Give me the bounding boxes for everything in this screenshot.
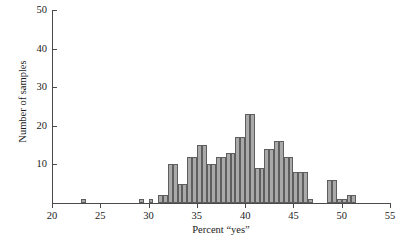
x-tick-label: 35 — [182, 210, 212, 221]
x-tick-mark — [245, 203, 246, 208]
x-tick-mark — [342, 203, 343, 208]
y-tick-mark — [52, 126, 57, 127]
x-tick-mark — [52, 203, 53, 208]
x-tick-mark — [390, 203, 391, 208]
x-tick-mark — [149, 203, 150, 208]
y-tick-mark — [52, 164, 57, 165]
x-tick-mark — [197, 203, 198, 208]
histogram-chart: 1020304050 2025303540455055 Percent “yes… — [0, 0, 405, 242]
y-tick-label: 50 — [0, 5, 47, 15]
x-tick-label: 55 — [375, 210, 405, 221]
x-tick-label: 30 — [134, 210, 164, 221]
y-tick-mark — [52, 49, 57, 50]
x-tick-label: 20 — [37, 210, 67, 221]
histogram-bars — [52, 10, 390, 203]
x-tick-mark — [100, 203, 101, 208]
y-tick-mark — [52, 87, 57, 88]
y-axis-title: Number of samples — [17, 32, 28, 172]
x-tick-label: 40 — [230, 210, 260, 221]
x-tick-label: 45 — [278, 210, 308, 221]
x-tick-mark — [293, 203, 294, 208]
histogram-bar — [308, 199, 313, 203]
x-tick-label: 25 — [85, 210, 115, 221]
x-tick-label: 50 — [327, 210, 357, 221]
histogram-bar — [351, 195, 356, 203]
y-tick-mark — [52, 10, 57, 11]
x-axis-title: Percent “yes” — [52, 224, 390, 235]
histogram-bar — [81, 199, 86, 203]
x-axis-line — [52, 203, 390, 204]
histogram-bar — [139, 199, 144, 203]
